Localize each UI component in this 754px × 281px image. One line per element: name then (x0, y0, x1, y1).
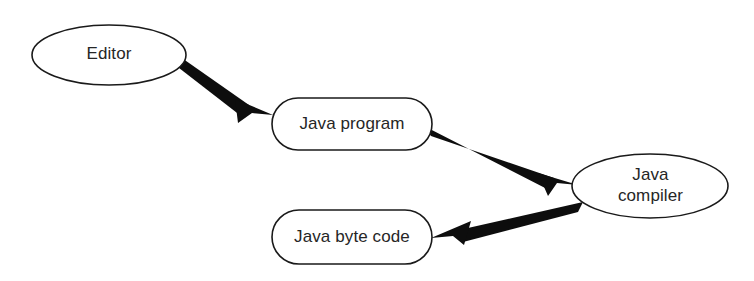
edge-shaft-java-program-to-java-compiler (424, 126, 554, 190)
node-java-program[interactable] (272, 98, 432, 150)
edge-shaft-java-compiler-to-java-byte-code (459, 202, 583, 242)
node-java-byte-code[interactable] (272, 210, 432, 264)
diagram-svg (0, 0, 754, 281)
arrowhead-editor-to-java-program (235, 99, 273, 123)
edge-editor-to-java-program (170, 56, 273, 123)
edge-java-compiler-to-java-byte-code (431, 202, 583, 245)
diagram-canvas: Editor Java program Java compiler Java b… (0, 0, 754, 281)
node-java-compiler[interactable] (572, 154, 728, 218)
edge-java-program-to-java-compiler (424, 126, 578, 196)
node-editor[interactable] (32, 25, 186, 85)
arrowhead-java-compiler-to-java-byte-code (431, 221, 471, 245)
